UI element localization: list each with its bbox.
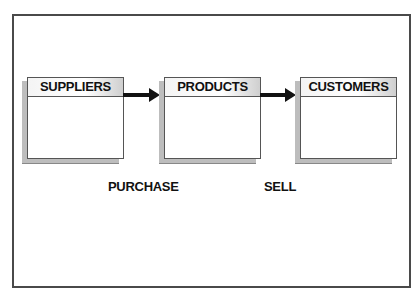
- suppliers-box: SUPPLIERS: [27, 77, 124, 159]
- customers-box: CUSTOMERS: [300, 77, 397, 159]
- suppliers-box-title: SUPPLIERS: [28, 78, 123, 97]
- arrowhead-icon: [149, 88, 160, 102]
- customers-box-title: CUSTOMERS: [301, 78, 396, 97]
- products-box: PRODUCTS: [164, 77, 261, 159]
- purchase-label: PURCHASE: [108, 179, 179, 194]
- sell-arrow: [260, 93, 286, 97]
- purchase-arrow: [123, 93, 150, 97]
- sell-label: SELL: [264, 179, 296, 194]
- arrowhead-icon: [285, 88, 296, 102]
- products-box-title: PRODUCTS: [165, 78, 260, 97]
